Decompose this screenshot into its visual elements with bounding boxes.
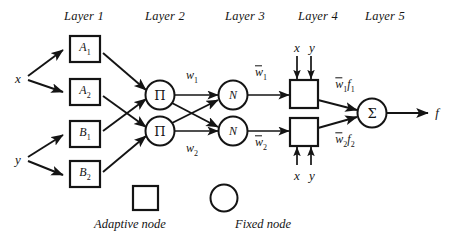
node-A2-label: A2	[79, 84, 90, 99]
layer4-top-input-x-label: x	[294, 41, 300, 54]
label-normalized-weight-w1: w1	[255, 66, 267, 81]
node-B2-label: B2	[79, 166, 90, 181]
layer4-bottom-input-y-label: y	[309, 169, 315, 182]
edge-y-to-B1	[28, 135, 63, 157]
layer-header-2: Layer 2	[145, 10, 185, 23]
label-consequent-w1f1: w1f1	[335, 78, 354, 93]
edge-x-to-A2	[28, 80, 63, 92]
layer-header-5: Layer 5	[365, 10, 405, 23]
edge-y-to-B2	[28, 161, 63, 175]
edge-B2-to-PI2	[103, 136, 146, 172]
edge-x-to-A1	[28, 50, 63, 76]
node-PI1-label: Π	[154, 89, 165, 102]
input-x-label: x	[15, 72, 21, 85]
label-consequent-w2f2: w2f2	[335, 133, 354, 148]
legend-square-glyph	[133, 186, 158, 210]
output-f-label: f	[435, 106, 439, 119]
edge-PI1-to-N2	[172, 103, 218, 127]
node-SUM-label: Σ	[367, 107, 376, 120]
layer-header-3: Layer 3	[225, 10, 265, 23]
node-N1-label: N	[229, 89, 237, 101]
node-PI2-label: Π	[154, 125, 165, 138]
anfis-architecture-figure: Layer 1 Layer 2 Layer 3 Layer 4 Layer 5 …	[0, 0, 451, 246]
node-A1-label: A1	[79, 41, 90, 56]
legend-fixed-node-label: Fixed node	[235, 218, 291, 231]
edge-xy-into-F2	[297, 147, 311, 165]
node-N2-label: N	[229, 125, 237, 137]
layer4-bottom-input-x-label: x	[294, 169, 300, 182]
legend-circle-glyph	[211, 185, 238, 212]
node-F1[interactable]	[290, 80, 318, 108]
layer-header-4: Layer 4	[298, 10, 338, 23]
label-weight-w2: w2	[186, 142, 198, 157]
edge-PI2-to-N1	[172, 100, 218, 123]
label-normalized-weight-w2: w2	[255, 136, 267, 151]
edge-A1-to-PI1	[103, 53, 146, 90]
node-B1-label: B1	[79, 126, 90, 141]
edge-A2-to-PI2	[103, 96, 146, 127]
label-weight-w1: w1	[186, 69, 198, 84]
edge-F2-to-SUM	[318, 117, 357, 128]
edge-F1-to-SUM	[318, 100, 357, 110]
diagram-canvas	[0, 0, 451, 246]
edge-xy-into-F1	[297, 56, 311, 79]
layer4-top-input-y-label: y	[309, 41, 315, 54]
legend-adaptive-node-label: Adaptive node	[94, 218, 166, 231]
node-F2[interactable]	[290, 118, 318, 146]
layer-header-1: Layer 1	[64, 10, 104, 23]
edge-B1-to-PI1	[103, 99, 146, 131]
input-y-label: y	[15, 153, 21, 166]
